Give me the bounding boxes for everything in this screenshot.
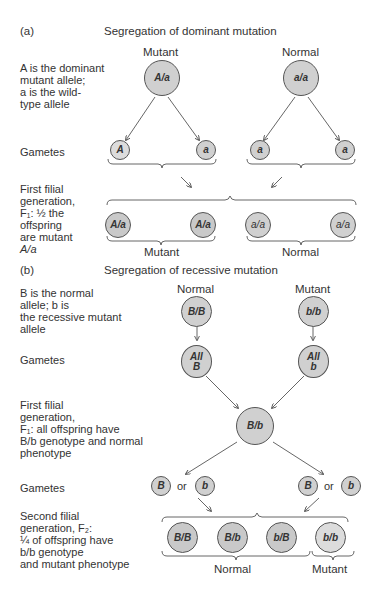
parent-genotype-circle: B/B: [181, 296, 212, 327]
f1-offspring-circle: a/a: [330, 212, 356, 238]
f1-offspring-circle: A/a: [190, 212, 216, 238]
gametes-label: Gametes: [20, 146, 65, 158]
gametes-label: Gametes: [20, 354, 65, 366]
group-label-normal: Normal: [282, 246, 319, 259]
parent-genotype-circle: A/a: [144, 60, 180, 96]
panel-b-tag: (b): [20, 264, 34, 277]
parent-label-mutant: Mutant: [295, 283, 330, 296]
gamete-circle: b: [195, 476, 215, 496]
f1-offspring-circle: a/a: [245, 212, 271, 238]
f1-offspring-circle: B/b: [236, 407, 274, 445]
gamete-circle: B: [151, 476, 171, 496]
parent-label-mutant: Mutant: [143, 46, 178, 59]
gamete-circle: a: [335, 140, 355, 160]
group-label-mutant: Mutant: [312, 563, 347, 576]
f2-offspring-circle: B/b: [217, 522, 248, 553]
f2-offspring-circle: b/b: [315, 522, 346, 553]
f2-offspring-circle: B/B: [167, 522, 198, 553]
parent-label-normal: Normal: [177, 283, 214, 296]
group-label-mutant: Mutant: [144, 246, 179, 259]
gametes-label: Gametes: [20, 482, 65, 494]
gamete-all-circle: All b: [298, 345, 329, 378]
f1-offspring-circle: A/a: [105, 212, 131, 238]
panel-a-title: Segregation of dominant mutation: [104, 25, 277, 38]
f2-offspring-circle: b/B: [266, 522, 297, 553]
gamete-all-circle: All B: [181, 345, 212, 378]
gamete-circle: b: [341, 476, 361, 496]
gamete-circle: a: [196, 140, 216, 160]
parent-genotype-circle: a/a: [283, 60, 319, 96]
or-text: or: [324, 480, 334, 492]
gamete-circle: B: [298, 476, 318, 496]
parent-genotype-circle: b/b: [298, 296, 329, 327]
gamete-circle: A: [110, 140, 130, 160]
gamete-circle: a: [250, 140, 270, 160]
or-text: or: [177, 480, 187, 492]
parent-label-normal: Normal: [282, 46, 319, 59]
panel-b-title: Segregation of recessive mutation: [104, 264, 278, 277]
group-label-normal: Normal: [214, 563, 251, 576]
panel-a-tag: (a): [20, 25, 34, 38]
